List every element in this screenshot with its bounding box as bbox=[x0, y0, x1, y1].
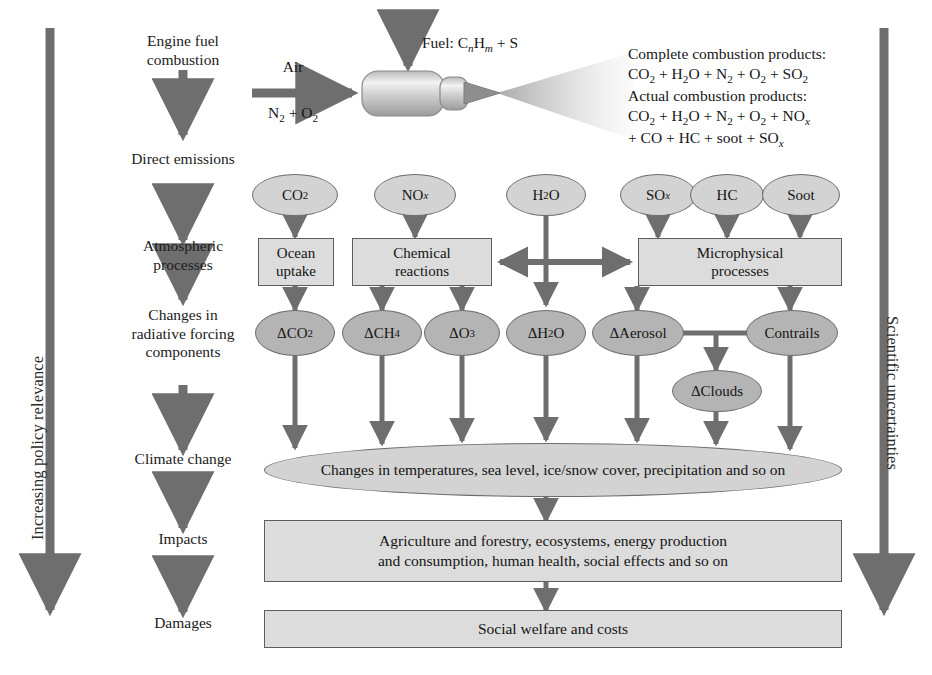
node-emission-h2o: H2O bbox=[506, 174, 586, 216]
complete-combustion-heading: Complete combustion products: bbox=[628, 44, 826, 64]
node-forcing-d-clouds: ΔClouds bbox=[672, 370, 762, 412]
node-forcing-d-ch4: ΔCH4 bbox=[342, 310, 422, 356]
node-forcing-d-h2o: ΔH2O bbox=[506, 310, 586, 356]
node-forcing-contrails: Contrails bbox=[746, 310, 838, 356]
stage-label-damages: Damages bbox=[83, 614, 283, 633]
stage-label-direct-emissions: Direct emissions bbox=[83, 150, 283, 169]
stage-label-radiative-forcing: Changes inradiative forcingcomponents bbox=[83, 306, 283, 362]
node-emission-soot: Soot bbox=[762, 174, 840, 216]
aerosol-contrail-cloud-connector bbox=[676, 333, 755, 370]
complete-combustion-formula: CO2 + H2O + N2 + O2 + SO2 bbox=[628, 64, 826, 86]
right-rail-label: Scientific uncertainties bbox=[882, 316, 902, 470]
actual-combustion-formula-1: CO2 + H2O + N2 + O2 + NOx bbox=[628, 106, 826, 128]
node-process-chemical-reactions: Chemicalreactions bbox=[352, 238, 492, 286]
engine-icon bbox=[362, 52, 634, 140]
node-impacts: Agriculture and forestry, ecosystems, en… bbox=[264, 520, 842, 582]
diagram-canvas: Increasing policy relevance Scientific u… bbox=[0, 0, 932, 675]
left-rail-label: Increasing policy relevance bbox=[28, 356, 48, 540]
stage-label-impacts: Impacts bbox=[83, 530, 283, 549]
stage-label-climate-change: Climate change bbox=[83, 450, 283, 469]
fuel-label: Fuel: CnHm + S bbox=[422, 34, 518, 54]
node-emission-nox: NOx bbox=[374, 174, 456, 216]
air-label-top: Air bbox=[248, 58, 338, 76]
process-to-forcing-arrows bbox=[295, 286, 790, 310]
air-label-bottom: N2 + O2 bbox=[243, 104, 343, 124]
node-forcing-d-aerosol: ΔAerosol bbox=[592, 310, 684, 356]
node-climate-change: Changes in temperatures, sea level, ice/… bbox=[264, 443, 842, 497]
node-process-ocean-uptake: Oceanuptake bbox=[258, 238, 334, 286]
node-forcing-d-o3: ΔO3 bbox=[424, 310, 500, 356]
node-emission-sox: SOx bbox=[620, 174, 696, 216]
node-emission-co2: CO2 bbox=[252, 174, 338, 216]
actual-combustion-heading: Actual combustion products: bbox=[628, 86, 826, 106]
node-forcing-d-co2: ΔCO2 bbox=[255, 310, 335, 356]
actual-combustion-formula-2: + CO + HC + soot + SOx bbox=[628, 128, 826, 150]
node-process-microphysical: Microphysicalprocesses bbox=[638, 238, 842, 286]
combustion-products-text: Complete combustion products: CO2 + H2O … bbox=[628, 44, 826, 151]
node-damages: Social welfare and costs bbox=[264, 610, 842, 648]
stage-label-atmospheric-processes: Atmosphericprocesses bbox=[83, 237, 283, 274]
node-emission-hc: HC bbox=[690, 174, 764, 216]
